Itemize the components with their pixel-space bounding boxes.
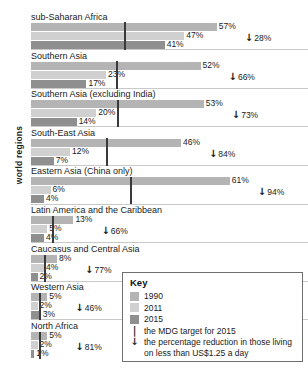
reduction-value: 73% <box>241 110 258 120</box>
mdg-target-tick <box>39 292 41 320</box>
region-label: Eastern Asia (China only) <box>31 166 135 177</box>
down-arrow-icon: ↓ <box>101 225 109 236</box>
bar-2015 <box>31 118 77 126</box>
mdg-target-tick-icon: | <box>130 326 139 336</box>
region-label: Latin America and the Caribbean <box>31 205 164 216</box>
bar-value-label: 1% <box>36 348 48 359</box>
chart-legend-key: Key 1990 2011 2015 | the MDG target for … <box>122 272 303 362</box>
reduction-value: 46% <box>85 303 102 313</box>
reduction-value: 77% <box>94 265 111 275</box>
reduction-annotation: ↓73% <box>232 109 258 121</box>
bar-row-1990: 13% <box>31 216 308 224</box>
region-label: Western Asia <box>31 282 86 293</box>
mdg-target-tick <box>117 99 119 127</box>
bar-2015 <box>31 41 165 49</box>
bar-row-2011: 5% <box>31 225 308 233</box>
legend-item-1990: 1990 <box>130 291 296 302</box>
bar-row-2015: 17% <box>31 80 308 88</box>
reduction-annotation: ↓66% <box>101 225 127 237</box>
down-arrow-icon: ↓ <box>209 148 217 159</box>
bar-value-label: 12% <box>72 146 89 157</box>
bar-value-label: 57% <box>219 21 236 32</box>
legend-item-2015: 2015 <box>130 314 296 325</box>
mdg-target-tick <box>106 138 108 166</box>
legend-item-reduction: ↓ the percentage reduction in those livi… <box>130 337 296 358</box>
bar-2015 <box>31 350 34 358</box>
bar-value-label: 61% <box>232 175 249 186</box>
mdg-target-tick <box>124 22 126 50</box>
bar-row-2015: 7% <box>31 157 308 165</box>
bar-value-label: 14% <box>79 116 96 127</box>
region-label: Southern Asia (excluding India) <box>31 89 158 100</box>
down-arrow-icon: ↓ <box>258 186 266 197</box>
bar-value-label: 41% <box>167 39 184 50</box>
bar-2015 <box>31 234 44 242</box>
bar-row-2011: 20% <box>31 109 308 117</box>
bar-2011 <box>31 302 38 310</box>
bar-row-2011: 12% <box>31 148 308 156</box>
reduction-value: 94% <box>267 187 284 197</box>
mdg-target-tick <box>130 176 132 204</box>
region-label: North Africa <box>31 321 80 332</box>
reduction-annotation: ↓94% <box>258 186 284 198</box>
bar-group: 46%12%7% <box>31 139 308 166</box>
region-label: sub-Saharan Africa <box>31 12 110 23</box>
bar-row-2015: 4% <box>31 234 308 242</box>
bar-value-label: 4% <box>46 193 58 204</box>
legend-label-mdg-target: the MDG target for 2015 <box>144 326 296 337</box>
bar-2015 <box>31 157 54 165</box>
bar-row-2011: 4% <box>31 264 308 272</box>
mdg-target-tick <box>52 215 54 243</box>
legend-label-2011: 2011 <box>144 303 296 314</box>
reduction-annotation: ↓81% <box>75 341 101 353</box>
reduction-annotation: ↓28% <box>245 32 271 44</box>
down-arrow-icon: ↓ <box>85 264 93 275</box>
bar-value-label: 47% <box>186 30 203 41</box>
bar-group: 53%20%14% <box>31 100 308 127</box>
poverty-reduction-bar-chart: world regions sub-Saharan Africa57%47%41… <box>0 0 308 375</box>
bar-value-label: 52% <box>203 60 220 71</box>
bar-2015 <box>31 273 38 281</box>
reduction-value: 28% <box>254 33 271 43</box>
bar-row-1990: 57% <box>31 23 308 31</box>
reduction-annotation: ↓77% <box>85 264 111 276</box>
y-axis-title: world regions <box>14 110 24 200</box>
reduction-value: 81% <box>85 342 102 352</box>
down-arrow-icon: ↓ <box>75 302 83 313</box>
mdg-target-tick <box>44 254 46 282</box>
bar-group: 13%5%4% <box>31 216 308 243</box>
bar-row-1990: 53% <box>31 100 308 108</box>
bar-row-2011: 23% <box>31 71 308 79</box>
legend-item-mdg-target: | the MDG target for 2015 <box>130 326 296 337</box>
bar-row-2015: 14% <box>31 118 308 126</box>
bar-value-label: 17% <box>88 78 105 89</box>
legend-title: Key <box>130 277 296 288</box>
bar-value-label: 20% <box>98 107 115 118</box>
bar-group: 52%23%17% <box>31 62 308 89</box>
reduction-annotation: ↓46% <box>75 302 101 314</box>
reduction-value: 66% <box>238 72 255 82</box>
bar-2011 <box>31 32 184 40</box>
bar-row-1990: 61% <box>31 177 308 185</box>
bar-row-1990: 52% <box>31 62 308 70</box>
2015-swatch-icon <box>130 315 139 324</box>
reduction-annotation: ↓66% <box>229 71 255 83</box>
reduction-value: 66% <box>111 226 128 236</box>
legend-label-1990: 1990 <box>144 291 296 302</box>
bar-2011 <box>31 225 47 233</box>
legend-label-reduction: the percentage reduction in those living… <box>144 337 296 358</box>
bar-value-label: 3% <box>43 309 55 320</box>
down-arrow-icon: ↓ <box>229 71 237 82</box>
2011-swatch-icon <box>130 303 139 312</box>
mdg-target-tick <box>39 331 41 359</box>
bar-2015 <box>31 80 86 88</box>
reduction-annotation: ↓84% <box>209 148 235 160</box>
bar-row-1990: 8% <box>31 255 308 263</box>
bar-2015 <box>31 195 44 203</box>
bar-value-label: 7% <box>56 155 68 166</box>
region-label: Southern Asia <box>31 51 89 62</box>
down-arrow-icon: ↓ <box>130 337 139 347</box>
region-label: Caucasus and Central Asia <box>31 244 142 255</box>
legend-label-2015: 2015 <box>144 314 296 325</box>
bar-value-label: 53% <box>206 98 223 109</box>
